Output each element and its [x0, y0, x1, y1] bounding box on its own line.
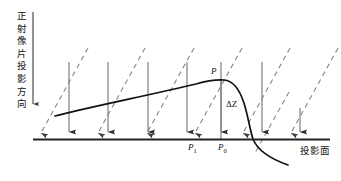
label-point-p0-sub: 0 — [224, 147, 227, 154]
orthophoto-projection-diagram: 正 射 像 片 投 影 方 向 P ΔZ P1 P0 投影面 — [0, 0, 341, 181]
projection-direction-label: 正 射 像 片 投 影 方 向 — [14, 10, 30, 111]
inclined-ray-1 — [41, 48, 88, 133]
label-point-p1-sub: 1 — [194, 147, 197, 154]
inclined-projection-rays — [41, 48, 338, 153]
label-point-p: P — [211, 66, 217, 76]
vlabel-char-5: 投 — [14, 60, 30, 73]
label-point-p0: P0 — [218, 142, 227, 154]
diagram-canvas — [0, 0, 341, 181]
vlabel-char-8: 向 — [14, 98, 30, 111]
label-point-p1: P1 — [188, 142, 197, 154]
vlabel-char-7: 方 — [14, 86, 30, 99]
label-projection-plane: 投影面 — [300, 143, 330, 157]
vlabel-char-6: 影 — [14, 73, 30, 86]
vlabel-char-2: 射 — [14, 23, 30, 36]
terrain-profile-curve — [55, 80, 288, 165]
vlabel-char-3: 像 — [14, 35, 30, 48]
vlabel-char-1: 正 — [14, 10, 30, 23]
vertical-projection-rays — [69, 62, 300, 132]
inclined-ray-7 — [291, 48, 338, 133]
inclined-ray-5 — [243, 48, 290, 133]
label-delta-z: ΔZ — [226, 99, 237, 109]
inclined-ray-6 — [255, 92, 289, 153]
inclined-ray-4 — [195, 48, 242, 133]
inclined-ray-2 — [98, 48, 145, 133]
vlabel-char-4: 片 — [14, 48, 30, 61]
